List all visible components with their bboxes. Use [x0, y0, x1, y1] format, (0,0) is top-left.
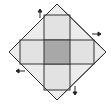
diagram-canvas: [0, 0, 111, 107]
arrow-down-icon: [73, 86, 77, 95]
arrow-right-icon: [92, 32, 101, 36]
arrow-left-icon: [16, 69, 25, 73]
arrow-up-icon: [38, 9, 42, 18]
center-square: [44, 40, 70, 64]
